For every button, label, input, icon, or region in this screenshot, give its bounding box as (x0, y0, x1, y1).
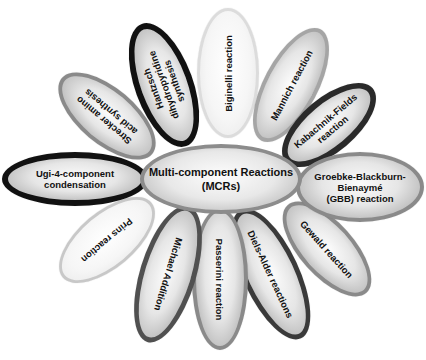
petal-label: Gewald reaction (298, 218, 355, 280)
petal-label: Strecker amino acid synthesis (74, 86, 141, 147)
petal-label: Ugi-4-component condensation (36, 168, 114, 190)
petal-label: Prins reaction (79, 215, 135, 264)
petal-label: Michael Addition (152, 236, 185, 312)
center-node-mcrs: Multi-component Reactions (MCRs) (140, 144, 302, 214)
petal-label: Passerini reaction (215, 238, 226, 320)
mcr-flower-diagram: Biginelli reaction Hantzsch dihydropyrid… (0, 0, 426, 360)
petal-label: Hantzsch dihydropyridine synthesis (136, 46, 192, 125)
petal-label: Groebke-Blackburn- Bienaymé (GBB) reacti… (314, 171, 405, 204)
petal-gbb: Groebke-Blackburn- Bienaymé (GBB) reacti… (296, 152, 424, 222)
center-label: Multi-component Reactions (MCRs) (149, 165, 293, 193)
petal-biginelli: Biginelli reaction (197, 8, 259, 138)
petal-ugi: Ugi-4-component condensation (2, 152, 148, 206)
petal-label: Biginelli reaction (223, 35, 234, 112)
